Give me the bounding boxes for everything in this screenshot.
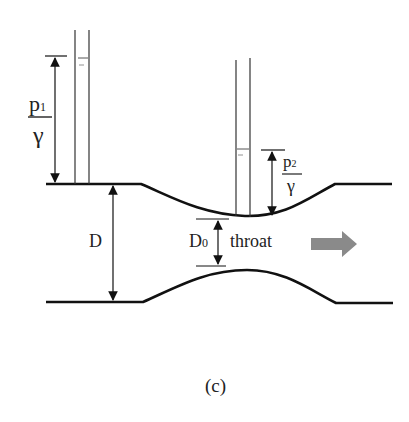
p1-numerator: p [29, 91, 40, 116]
throat-piezometer-tube [236, 58, 250, 217]
p2-gamma: γ [287, 176, 295, 197]
p1-subscript: 1 [40, 100, 46, 114]
d0-subscript: 0 [202, 236, 208, 250]
p1-head-dimension [45, 56, 67, 182]
inlet-piezometer-tube [75, 30, 89, 184]
figure-caption: (c) [205, 375, 226, 397]
p2-head-dimension [261, 150, 285, 215]
p2-subscript: 2 [292, 158, 297, 169]
p1-label: p1 [29, 91, 46, 117]
throat-label: throat [230, 231, 272, 252]
p1-gamma: γ [33, 122, 44, 149]
p2-numerator: p [283, 152, 292, 171]
bottom-pipe-wall [46, 270, 393, 303]
venturi-diagram [0, 0, 409, 422]
p2-label: p2 [283, 152, 297, 172]
throat-diameter-label: D0 [189, 231, 208, 252]
d0-main: D [189, 231, 202, 251]
top-pipe-wall [46, 184, 392, 216]
pipe-diameter-label: D [89, 231, 102, 252]
flow-direction-arrow [311, 231, 357, 257]
